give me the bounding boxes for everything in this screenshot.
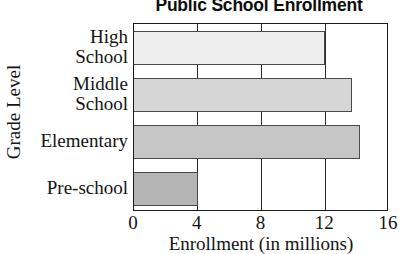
y-axis-label-elementary: Elementary bbox=[2, 131, 128, 151]
x-tick-label-12: 12 bbox=[304, 212, 344, 234]
plot-area bbox=[133, 23, 388, 211]
y-axis-category-labels: HighSchoolMiddleSchoolElementaryPre-scho… bbox=[0, 0, 128, 254]
y-axis-label-middle-school: MiddleSchool bbox=[2, 74, 128, 113]
y-axis-label-line: School bbox=[2, 94, 128, 114]
y-axis-label-pre-school: Pre-school bbox=[2, 178, 128, 198]
x-tick-label-0: 0 bbox=[113, 212, 153, 234]
y-axis-label-line: High bbox=[2, 27, 128, 47]
y-axis-label-line: Pre-school bbox=[2, 178, 128, 198]
bar-high-school bbox=[134, 31, 325, 65]
y-axis-label-line: Elementary bbox=[2, 131, 128, 151]
chart-figure: Public School Enrollment Grade Level Hig… bbox=[0, 0, 402, 254]
bar-elementary bbox=[134, 125, 360, 159]
x-tick-label-4: 4 bbox=[177, 212, 217, 234]
y-axis-label-high-school: HighSchool bbox=[2, 27, 128, 66]
x-tick-label-8: 8 bbox=[241, 212, 281, 234]
bar-middle-school bbox=[134, 78, 352, 112]
x-axis-title: Enrollment (in millions) bbox=[133, 233, 389, 254]
bar-pre-school bbox=[134, 172, 198, 206]
y-axis-label-line: Middle bbox=[2, 74, 128, 94]
chart-title: Public School Enrollment bbox=[130, 0, 388, 14]
x-tick-label-16: 16 bbox=[368, 212, 402, 234]
y-axis-label-line: School bbox=[2, 47, 128, 67]
